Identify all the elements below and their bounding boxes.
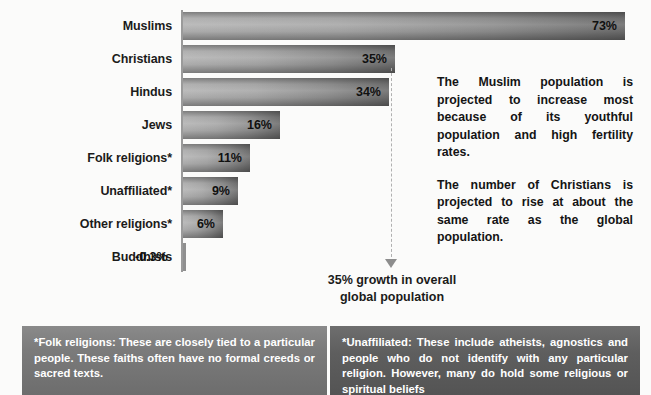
category-label-muslims: Muslims <box>0 12 172 40</box>
bar-buddhists <box>183 243 186 271</box>
footnote-folk-religions-text: *Folk religions: These are closely tied … <box>34 335 315 382</box>
bar-value-unaffiliated: 9% <box>212 177 230 205</box>
reference-caption: 35% growth in overall global population <box>272 272 512 306</box>
bar-value-hindus: 34% <box>356 78 381 106</box>
bar-hindus: 34% <box>183 78 389 106</box>
category-label-jews: Jews <box>0 111 172 139</box>
bar-jews: 16% <box>183 111 280 139</box>
bar-other-religions: 6% <box>183 210 223 238</box>
commentary-paragraph-muslim: The Muslim population is projected to in… <box>437 74 633 162</box>
chart-row-muslims: Muslims 73% <box>0 12 651 40</box>
footnote-folk-religions: *Folk religions: These are closely tied … <box>22 326 327 395</box>
category-label-folk-religions: Folk religions* <box>0 144 172 172</box>
bar-value-muslims: 73% <box>592 12 617 40</box>
category-label-unaffiliated: Unaffiliated* <box>0 177 172 205</box>
commentary-paragraph-christian: The number of Christians is projected to… <box>437 177 633 247</box>
footnote-unaffiliated-text: *Unaffiliated: These include atheists, a… <box>342 335 628 395</box>
reference-arrow-icon <box>385 259 397 268</box>
bar-folk-religions: 11% <box>183 144 250 172</box>
bar-value-buddhists: -0.3% <box>135 243 168 271</box>
bar-christians: 35% <box>183 45 395 73</box>
bar-value-folk-religions: 11% <box>218 144 242 172</box>
bar-value-jews: 16% <box>247 111 272 139</box>
chart-row-buddhists: Buddhists -0.3% <box>0 243 651 271</box>
reference-caption-line-2: global population <box>272 289 512 306</box>
footnote-unaffiliated: *Unaffiliated: These include atheists, a… <box>330 326 640 395</box>
category-label-christians: Christians <box>0 45 172 73</box>
bar-value-other-religions: 6% <box>197 210 215 238</box>
bar-muslims: 73% <box>183 12 625 40</box>
commentary-panel: The Muslim population is projected to in… <box>437 74 633 247</box>
reference-caption-line-1: 35% growth in overall <box>272 272 512 289</box>
category-label-other-religions: Other religions* <box>0 210 172 238</box>
category-label-hindus: Hindus <box>0 78 172 106</box>
bar-unaffiliated: 9% <box>183 177 238 205</box>
bar-value-christians: 35% <box>362 45 387 73</box>
chart-row-christians: Christians 35% <box>0 45 651 73</box>
reference-line-35-percent <box>391 68 392 262</box>
